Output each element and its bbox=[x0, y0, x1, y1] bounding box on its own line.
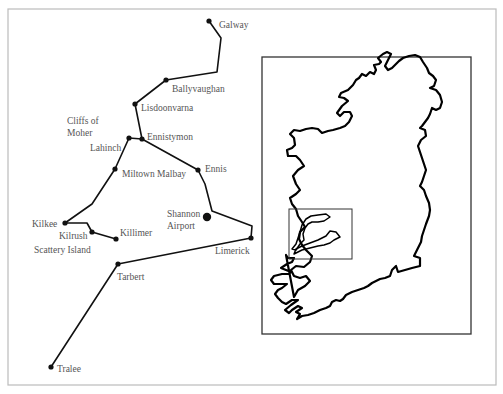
town-marker-icon bbox=[195, 167, 200, 172]
town-marker-icon bbox=[115, 261, 120, 266]
place-label: Limerick bbox=[215, 246, 250, 256]
town-marker-icon bbox=[62, 220, 67, 225]
place-label: Kilrush bbox=[59, 231, 88, 241]
place-ennistymon: Ennistymon bbox=[139, 132, 193, 142]
place-tralee: Tralee bbox=[48, 364, 81, 374]
route-ennistymon-to-limerick bbox=[142, 139, 252, 238]
place-lisdoonvarna: Lisdoonvarna bbox=[132, 101, 194, 113]
town-marker-icon bbox=[132, 101, 137, 106]
town-marker-icon bbox=[89, 229, 94, 234]
airport-marker-icon bbox=[203, 213, 211, 221]
place-markers: GalwayBallyvaughanLisdoonvarnaEnnistymon… bbox=[32, 18, 254, 374]
town-marker-icon bbox=[206, 18, 211, 23]
place-kilrush: Kilrush bbox=[59, 229, 95, 241]
place-label: Shannon bbox=[167, 209, 201, 219]
place-label: Tralee bbox=[57, 364, 81, 374]
place-label: Tarbert bbox=[117, 272, 145, 282]
town-marker-icon bbox=[48, 364, 53, 369]
place-label: Ballyvaughan bbox=[172, 84, 225, 94]
annotation-cliffs-of-moher: Cliffs of bbox=[67, 116, 100, 126]
town-marker-icon bbox=[139, 136, 144, 141]
place-killimer: Killimer bbox=[113, 228, 153, 242]
place-ballyvaughan: Ballyvaughan bbox=[163, 77, 225, 94]
town-marker-icon bbox=[113, 236, 118, 241]
place-label: Kilkee bbox=[32, 219, 57, 229]
place-label: Killimer bbox=[120, 228, 153, 238]
place-tarbert: Tarbert bbox=[115, 261, 144, 282]
annotation-scattery-island: Scattery Island bbox=[34, 245, 91, 255]
place-galway: Galway bbox=[206, 18, 248, 30]
town-marker-icon bbox=[112, 166, 117, 171]
place-label: Lahinch bbox=[90, 143, 121, 153]
place-miltown-malbay: Miltown Malbay bbox=[112, 166, 186, 179]
place-label: Lisdoonvarna bbox=[141, 103, 194, 113]
place-shannon-airport: ShannonAirport bbox=[167, 209, 211, 231]
place-kilkee: Kilkee bbox=[32, 219, 68, 229]
map-figure: GalwayBallyvaughanLisdoonvarnaEnnistymon… bbox=[0, 0, 503, 394]
route-lines bbox=[51, 21, 252, 367]
route-limerick-to-tralee bbox=[51, 238, 251, 367]
annotation-cliffs-of-moher: Moher bbox=[67, 128, 93, 138]
route-galway-to-ennistymon bbox=[135, 21, 221, 139]
place-label-line2: Airport bbox=[167, 221, 195, 231]
place-label: Miltown Malbay bbox=[122, 169, 186, 179]
place-label: Galway bbox=[219, 20, 249, 30]
route-map: GalwayBallyvaughanLisdoonvarnaEnnistymon… bbox=[0, 0, 503, 394]
place-label: Ennistymon bbox=[147, 132, 193, 142]
town-marker-icon bbox=[163, 77, 168, 82]
ireland-inset-map bbox=[262, 52, 471, 334]
town-marker-icon bbox=[248, 235, 253, 240]
place-label: Ennis bbox=[205, 164, 227, 174]
town-marker-icon bbox=[126, 135, 131, 140]
